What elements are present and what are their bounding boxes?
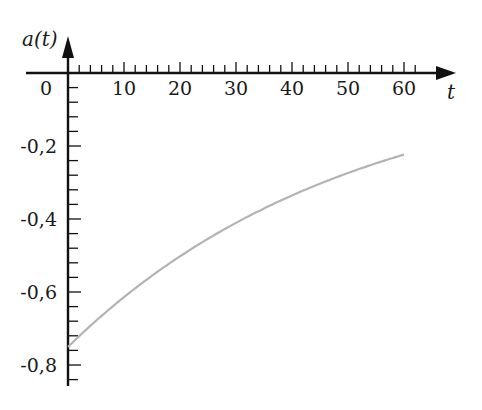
- y-tick-label: -0,8: [20, 354, 57, 376]
- tick-labels: 102030405060-0,2-0,4-0,6-0,8: [20, 77, 416, 376]
- line-chart: 102030405060-0,2-0,4-0,6-0,8 a(t) t 0: [0, 0, 482, 410]
- y-tick-label: -0,6: [20, 281, 57, 303]
- x-tick-label: 50: [336, 77, 360, 99]
- x-tick-label: 30: [224, 77, 248, 99]
- origin-label: 0: [40, 77, 52, 99]
- y-tick-label: -0,4: [20, 208, 57, 230]
- chart-container: 102030405060-0,2-0,4-0,6-0,8 a(t) t 0: [0, 0, 482, 410]
- y-axis-arrow-icon: [62, 36, 74, 58]
- data-curve: [68, 155, 404, 347]
- x-axis-arrow-icon: [436, 66, 456, 80]
- y-axis-label: a(t): [22, 27, 58, 51]
- x-tick-label: 20: [168, 77, 192, 99]
- x-axis-label: t: [447, 80, 456, 104]
- x-tick-label: 40: [280, 77, 304, 99]
- y-tick-label: -0,2: [20, 135, 57, 157]
- x-tick-label: 10: [112, 77, 136, 99]
- x-tick-label: 60: [392, 77, 416, 99]
